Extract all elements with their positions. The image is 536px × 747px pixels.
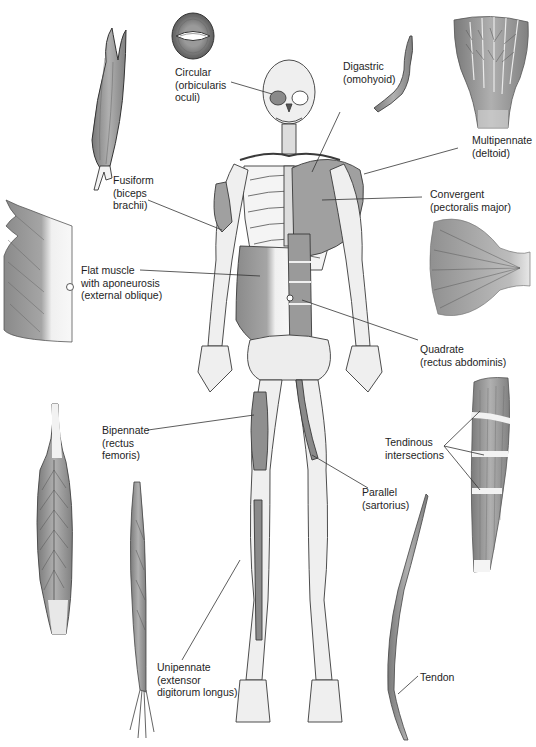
label-tendon: Tendon (420, 671, 454, 684)
convergent-muscle-illustration (430, 219, 530, 315)
flat-muscle-illustration (4, 200, 74, 342)
label-convergent: Convergent (pectoralis major) (430, 188, 511, 213)
label-bipennate: Bipennate (rectus femoris) (102, 424, 149, 462)
fusiform-muscle-illustration (92, 28, 126, 190)
label-fusiform: Fusiform (biceps brachii) (113, 174, 154, 212)
quadrate-muscle-illustration (471, 378, 510, 573)
bipennate-muscle-illustration (37, 404, 72, 634)
label-digastric: Digastric (omohyoid) (343, 60, 396, 85)
label-multipennate: Multipennate (deltoid) (472, 134, 532, 159)
circular-muscle-illustration (172, 13, 214, 59)
muscle-shapes-figure: Circular (orbicularis oculi) Digastric (… (0, 0, 536, 747)
label-quadrate: Quadrate (rectus abdominis) (420, 343, 506, 368)
skeleton-body-illustration (198, 60, 382, 722)
label-tendinous-intersections: Tendinous intersections (385, 436, 444, 461)
label-circular: Circular (orbicularis oculi) (175, 66, 226, 104)
unipennate-muscle-illustration (130, 482, 154, 738)
multipennate-muscle-illustration (454, 16, 528, 128)
label-flat-muscle: Flat muscle with aponeurosis (external o… (81, 264, 162, 302)
parallel-muscle-illustration (388, 494, 428, 740)
label-unipennate: Unipennate (extensor digitorum longus) (157, 661, 238, 699)
label-parallel: Parallel (sartorius) (362, 486, 409, 511)
